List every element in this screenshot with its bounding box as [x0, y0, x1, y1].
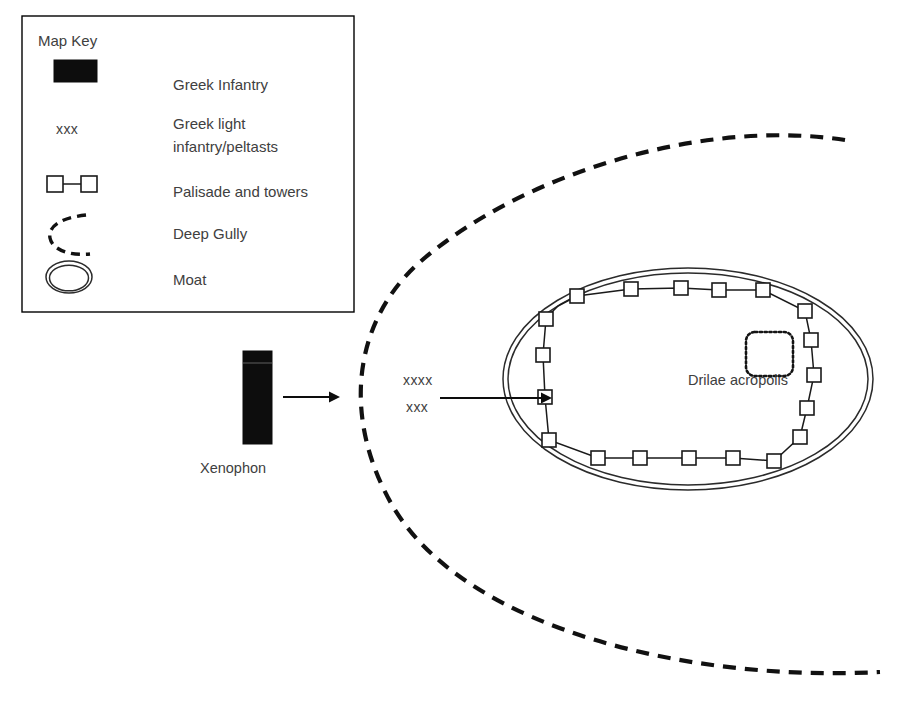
palisade-tower	[712, 283, 726, 297]
drilae-acropolis-label: Drilae acropolis	[688, 372, 788, 388]
peltast-mark-upper: xxxx	[403, 372, 433, 388]
palisade-tower	[800, 401, 814, 415]
peltast-advance-arrow	[440, 393, 552, 404]
xenophon-force-group: Xenophon	[200, 351, 340, 476]
palisade-tower	[591, 451, 605, 465]
palisade-tower	[798, 304, 812, 318]
peltast-mark-lower: xxx	[406, 399, 428, 415]
drilae-acropolis-shape	[746, 332, 793, 376]
palisade-tower	[674, 281, 688, 295]
palisade-tower	[726, 451, 740, 465]
xenophon-advance-arrow	[283, 392, 340, 403]
palisade-tower	[624, 282, 638, 296]
map-key-title: Map Key	[38, 32, 98, 49]
palisade-tower	[542, 433, 556, 447]
legend-label-moat: Moat	[173, 271, 207, 288]
palisade-tower	[807, 368, 821, 382]
legend-label-deep-gully: Deep Gully	[173, 225, 248, 242]
palisade-tower	[539, 312, 553, 326]
palisade-tower	[570, 289, 584, 303]
legend-symbol-peltasts: xxx	[56, 121, 78, 137]
legend-label-greek-infantry: Greek Infantry	[173, 76, 269, 93]
map-canvas: Map Key Greek Infantry xxx Greek light i…	[0, 0, 904, 709]
palisade-tower	[536, 348, 550, 362]
legend-symbol-greek-infantry	[54, 60, 97, 82]
palisade-tower	[804, 333, 818, 347]
palisade-tower	[633, 451, 647, 465]
palisade-tower	[793, 430, 807, 444]
palisade-tower	[756, 283, 770, 297]
palisade-tower	[682, 451, 696, 465]
peltast-force-group: xxxx xxx	[403, 372, 552, 415]
palisade-tower	[767, 454, 781, 468]
legend-label-palisade-and-towers: Palisade and towers	[173, 183, 308, 200]
legend-label-greek-light-infantry-line2: infantry/peltasts	[173, 138, 278, 155]
xenophon-infantry-block	[243, 351, 272, 444]
xenophon-label: Xenophon	[200, 460, 266, 476]
battle-map-figure: Map Key Greek Infantry xxx Greek light i…	[0, 0, 904, 709]
map-key-panel: Map Key Greek Infantry xxx Greek light i…	[22, 16, 354, 312]
legend-label-greek-light-infantry-line1: Greek light	[173, 115, 246, 132]
